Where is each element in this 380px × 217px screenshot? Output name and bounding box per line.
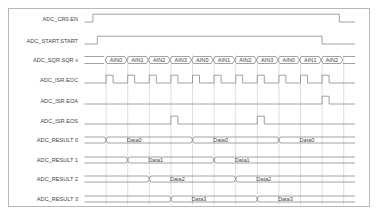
data-value-label: Data0 [213, 137, 228, 143]
waveform [85, 96, 356, 104]
signal-r0: ADC_RESULT 0Data0Data0Data0 [37, 137, 355, 143]
bus-segment-label: AIN3 [261, 57, 273, 63]
data-value-label: Data0 [127, 137, 142, 143]
data-value-label: Data2 [170, 176, 185, 182]
signal-en: ADC_CR0.EN [43, 14, 355, 22]
signal-r1: ADC_RESULT 1Data1Data1 [37, 157, 355, 163]
timing-diagram: ADC_CR0.ENADC_START.STARTADC_SQR.SQR xAI… [0, 0, 380, 217]
bus-segment-label: AIN1 [131, 57, 143, 63]
signal-eoa: ADC_ISR.EOA [40, 96, 355, 104]
bus-idle [85, 57, 105, 64]
signal-label: ADC_ISR.EOC [40, 77, 78, 83]
bus-segment-label: AIN0 [282, 57, 294, 63]
signal-sqr: ADC_SQR.SQR xAIN0AIN1AIN2AIN3AIN0AIN1AIN… [33, 57, 355, 64]
waveform [85, 36, 356, 44]
bus-segment-label: AIN2 [239, 57, 251, 63]
signal-start: ADC_START.START [27, 36, 356, 44]
bus-segment-label: AIN2 [326, 57, 338, 63]
waveform [85, 157, 356, 163]
waveform [85, 14, 356, 22]
signal-r3: ADC_RESULT 3Data3Data3 [37, 196, 355, 202]
signal-label: ADC_START.START [27, 38, 79, 44]
data-value-label: Data1 [235, 157, 250, 163]
data-value-label: Data2 [256, 176, 271, 182]
bus-segment-label: AIN1 [218, 57, 230, 63]
bus-segment-label: AIN1 [304, 57, 316, 63]
signal-label: ADC_RESULT 2 [37, 176, 78, 182]
signal-label: ADC_SQR.SQR x [33, 57, 78, 63]
waveform [85, 75, 356, 83]
data-value-label: Data3 [192, 196, 207, 202]
waveform [85, 196, 356, 202]
waveform [85, 116, 356, 124]
signal-label: ADC_ISR.EOS [40, 118, 78, 124]
signal-eos: ADC_ISR.EOS [40, 116, 355, 124]
signal-eoc: ADC_ISR.EOC [40, 75, 355, 83]
bus-idle [343, 57, 355, 64]
signal-label: ADC_ISR.EOA [40, 98, 78, 104]
signal-r2: ADC_RESULT 2Data2Data2 [37, 176, 355, 182]
bus-segment-label: AIN3 [174, 57, 186, 63]
waveform [85, 176, 356, 182]
signal-label: ADC_CR0.EN [43, 16, 78, 22]
data-value-label: Data0 [300, 137, 315, 143]
signal-label: ADC_RESULT 0 [37, 137, 78, 143]
bus-segment-label: AIN0 [196, 57, 208, 63]
signal-label: ADC_RESULT 1 [37, 157, 78, 163]
data-value-label: Data1 [148, 157, 163, 163]
bus-segment-label: AIN2 [153, 57, 165, 63]
data-value-label: Data3 [278, 196, 293, 202]
signal-label: ADC_RESULT 3 [37, 196, 78, 202]
bus-segment-label: AIN0 [110, 57, 122, 63]
